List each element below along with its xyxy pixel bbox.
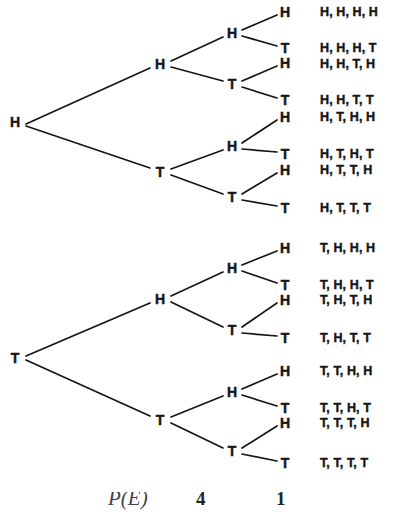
tree-branch-lines: [0, 0, 398, 514]
tree-leaf-6[interactable]: H: [280, 163, 290, 177]
outcome-label: T, H, T, H: [320, 294, 372, 307]
tree-leaf-14[interactable]: H: [280, 416, 290, 430]
tree-node-l3-6[interactable]: H: [227, 385, 237, 399]
outcome-label: H, H, H, H: [320, 6, 378, 19]
tree-node-l3-5[interactable]: T: [228, 323, 237, 337]
tree-leaf-0[interactable]: H: [280, 5, 290, 19]
tree-node-l2-3[interactable]: T: [156, 413, 165, 427]
tree-node-l3-4[interactable]: H: [227, 261, 237, 275]
outcome-label: H, T, H, T: [320, 148, 374, 161]
tree-leaf-7[interactable]: T: [281, 201, 290, 215]
outcome-label: T, T, H, T: [320, 402, 371, 415]
tree-leaf-1[interactable]: T: [281, 41, 290, 55]
tree-node-l3-0[interactable]: H: [227, 26, 237, 40]
tree-leaf-10[interactable]: H: [280, 293, 290, 307]
outcome-label: H, T, H, H: [320, 111, 375, 124]
tree-node-l2-1[interactable]: T: [156, 165, 165, 179]
tree-leaf-4[interactable]: H: [280, 110, 290, 124]
tree-leaf-13[interactable]: T: [281, 401, 290, 415]
tree-leaf-15[interactable]: T: [281, 456, 290, 470]
tree-node-root-h[interactable]: H: [10, 115, 20, 129]
tree-node-l3-7[interactable]: T: [228, 444, 237, 458]
outcome-label: T, T, H, H: [320, 365, 372, 378]
outcome-label: T, T, T, T: [320, 457, 368, 470]
diagram-canvas: H T H T H T H T H T H T H T H T H T H T …: [0, 0, 398, 514]
tree-node-l2-0[interactable]: H: [155, 57, 165, 71]
tree-leaf-2[interactable]: H: [280, 56, 290, 70]
tree-leaf-8[interactable]: H: [280, 241, 290, 255]
outcome-label: T, H, H, H: [320, 242, 375, 255]
formula-numerator-right: 1: [276, 492, 286, 510]
outcome-label: H, T, T, H: [320, 164, 372, 177]
outcome-label: T, H, H, T: [320, 279, 374, 292]
outcome-label: T, T, T, H: [320, 417, 370, 430]
tree-leaf-12[interactable]: H: [280, 364, 290, 378]
tree-node-l3-2[interactable]: H: [227, 139, 237, 153]
outcome-label: H, H, H, T: [320, 42, 377, 55]
tree-leaf-11[interactable]: T: [281, 331, 290, 345]
outcome-label: T, H, T, T: [320, 332, 371, 345]
formula-expression: P(E): [108, 492, 148, 511]
outcome-label: H, H, T, H: [320, 58, 375, 71]
tree-node-l3-1[interactable]: T: [228, 77, 237, 91]
tree-leaf-3[interactable]: T: [281, 93, 290, 107]
outcome-label: H, H, T, T: [320, 94, 374, 107]
tree-node-l2-2[interactable]: H: [155, 292, 165, 306]
tree-leaf-9[interactable]: T: [281, 278, 290, 292]
probability-formula-cutoff: P(E) 4 1: [0, 492, 398, 514]
tree-leaf-5[interactable]: T: [281, 147, 290, 161]
tree-node-root-t[interactable]: T: [11, 351, 20, 365]
formula-numerator-left: 4: [196, 492, 206, 510]
tree-node-l3-3[interactable]: T: [228, 190, 237, 204]
outcome-label: H, T, T, T: [320, 202, 371, 215]
